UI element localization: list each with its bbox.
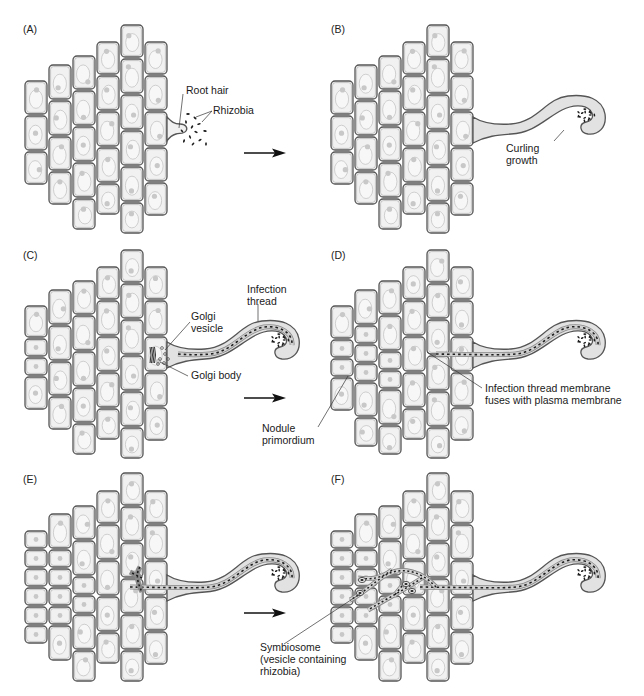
rhizobium bbox=[205, 142, 207, 146]
rhizobium bbox=[183, 139, 186, 143]
panel-c-label: (C) bbox=[23, 249, 38, 261]
infection-thread-label: Infection thread bbox=[247, 283, 287, 307]
root-hair-label: Root hair bbox=[186, 84, 229, 96]
rhizobium bbox=[197, 123, 201, 126]
panel-f-label: (F) bbox=[331, 473, 344, 485]
curling-growth-label: Curling growth bbox=[506, 142, 539, 166]
panel-d-illustration bbox=[322, 230, 644, 462]
panel-d-label: (D) bbox=[331, 249, 346, 261]
panel-e: (E) Symbiosome (vesicle containing rhizo… bbox=[0, 460, 322, 692]
arrow-icon bbox=[244, 608, 286, 618]
arrow-icon bbox=[244, 393, 286, 403]
panel-a-label: (A) bbox=[23, 23, 37, 35]
plant-cells bbox=[331, 473, 473, 681]
root-hair bbox=[167, 117, 187, 141]
panel-f: (F) bbox=[322, 460, 644, 692]
golgi-vesicle-label: Golgi vesicle bbox=[191, 310, 223, 334]
plant-cells bbox=[25, 473, 167, 681]
root-hair bbox=[167, 321, 299, 368]
rhizobium bbox=[198, 138, 202, 141]
root-nodulation-figure: (A) Root hair Rhizobia (B) Curling growt… bbox=[0, 0, 644, 696]
panel-b: (B) Curling growth bbox=[322, 0, 644, 232]
plant-cells bbox=[25, 25, 167, 233]
panel-d: (D) Nodule primordium Infection thread m… bbox=[322, 230, 644, 462]
rhizobium bbox=[188, 135, 191, 139]
plant-cells bbox=[331, 25, 473, 233]
rhizobium bbox=[190, 125, 193, 129]
rhizobium bbox=[194, 130, 198, 133]
nodule-primordium-label: Nodule primordium bbox=[262, 422, 315, 446]
panel-a-illustration bbox=[0, 0, 322, 232]
panel-f-illustration bbox=[322, 460, 644, 696]
panel-a: (A) Root hair Rhizobia bbox=[0, 0, 322, 232]
rhizobium bbox=[203, 130, 207, 132]
plant-cells bbox=[25, 250, 167, 458]
golgi-body-label: Golgi body bbox=[191, 369, 241, 381]
membrane-fusion-label: Infection thread membrane fuses with pla… bbox=[485, 382, 622, 406]
rhizobia-label: Rhizobia bbox=[213, 104, 254, 116]
rhizobium bbox=[191, 142, 195, 146]
rhizobium bbox=[185, 120, 187, 124]
panel-b-label: (B) bbox=[331, 23, 345, 35]
rhizobium bbox=[186, 113, 190, 115]
panel-b-illustration bbox=[322, 0, 644, 232]
arrow-icon bbox=[244, 148, 286, 158]
panel-e-label: (E) bbox=[23, 473, 37, 485]
root-hair bbox=[473, 96, 605, 143]
